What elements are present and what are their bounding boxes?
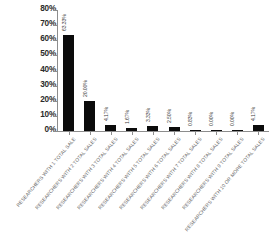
bar-group[interactable]: 2.50% <box>169 10 180 131</box>
y-axis-tick-mark <box>53 10 57 11</box>
bar-group[interactable]: 4.17% <box>105 10 116 131</box>
x-axis-tick-mark <box>195 132 196 135</box>
y-axis-tick-labels: 80%70%60%50%40%30%20%10%0% <box>26 9 56 131</box>
bar-group[interactable]: 0.83% <box>190 10 201 131</box>
y-axis-tick-label: 10% <box>26 111 56 119</box>
x-axis-tick-mark <box>216 132 217 135</box>
bar[interactable] <box>126 128 137 131</box>
y-axis-tick-label: 20% <box>26 96 56 104</box>
bar[interactable] <box>211 130 222 131</box>
y-axis-tick-mark <box>53 71 57 72</box>
bar-group[interactable]: 0.00% <box>211 10 222 131</box>
x-axis-tick-mark <box>258 132 259 135</box>
y-axis-tick-label: 80% <box>26 5 56 13</box>
y-axis-tick-mark <box>53 116 57 117</box>
x-axis-tick-mark <box>90 132 91 135</box>
bar-group[interactable]: 63.33% <box>63 10 74 131</box>
y-axis-tick-mark <box>53 131 57 132</box>
x-axis-tick-mark <box>153 132 154 135</box>
y-axis-tick-label: 40% <box>26 66 56 74</box>
bar-group[interactable]: 1.67% <box>126 10 137 131</box>
bar-value-label: 2.50% <box>166 109 172 123</box>
bar[interactable] <box>169 127 180 131</box>
x-axis-tick-mark <box>174 132 175 135</box>
y-axis-tick-label: 30% <box>26 81 56 89</box>
y-axis-tick-mark <box>53 101 57 102</box>
y-axis-tick-mark <box>53 55 57 56</box>
bar[interactable] <box>63 35 74 131</box>
x-axis-category-label: RESEARCHERS WITH 10 OR MORE TOTAL SALES <box>184 136 266 232</box>
bar[interactable] <box>190 130 201 131</box>
bar-value-label: 1.67% <box>124 111 130 125</box>
x-axis-tick-mark <box>111 132 112 135</box>
bar-value-label: 0.00% <box>208 112 214 126</box>
bar-value-label: 4.17% <box>103 107 109 121</box>
x-axis-tick-mark <box>132 132 133 135</box>
bar[interactable] <box>105 125 116 131</box>
bar[interactable] <box>232 130 243 131</box>
bar-group[interactable]: 4.17% <box>253 10 264 131</box>
y-axis-tick-mark <box>53 40 57 41</box>
bar-value-label: 20.00% <box>82 80 88 97</box>
bar-value-label: 63.33% <box>61 15 67 32</box>
bar-group[interactable]: 0.00% <box>232 10 243 131</box>
y-axis-tick-label: 0% <box>26 126 56 134</box>
bar-chart: 80%70%60%50%40%30%20%10%0% 63.33%20.00%4… <box>0 0 273 245</box>
bar[interactable] <box>147 126 158 131</box>
bar[interactable] <box>253 125 264 131</box>
bar-value-label: 0.83% <box>187 112 193 126</box>
bar-value-label: 0.00% <box>229 112 235 126</box>
y-axis-tick-label: 60% <box>26 35 56 43</box>
y-axis-tick-mark <box>53 25 57 26</box>
plot-area: 63.33%20.00%4.17%1.67%3.33%2.50%0.83%0.0… <box>58 10 269 131</box>
x-axis-tick-mark <box>69 132 70 135</box>
bar-value-label: 4.17% <box>250 107 256 121</box>
bar-value-label: 3.33% <box>145 108 151 122</box>
x-axis-tick-mark <box>237 132 238 135</box>
y-axis-tick-label: 50% <box>26 50 56 58</box>
y-axis-tick-mark <box>53 86 57 87</box>
bar-group[interactable]: 20.00% <box>84 10 95 131</box>
bar[interactable] <box>84 101 95 131</box>
bar-group[interactable]: 3.33% <box>147 10 158 131</box>
y-axis-tick-label: 70% <box>26 20 56 28</box>
